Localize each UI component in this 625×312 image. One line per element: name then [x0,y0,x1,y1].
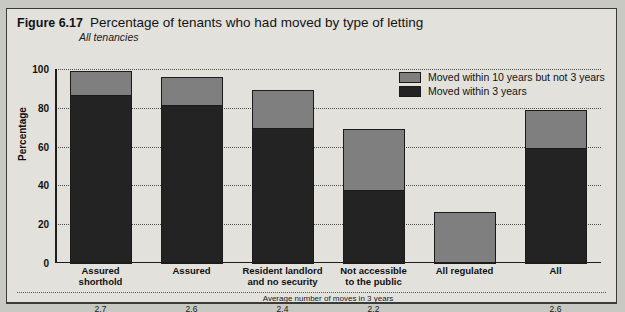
category-label-line2: shorthold [55,277,146,288]
bar-segment-moved-3-years [252,128,314,264]
bar-group [525,110,587,263]
y-tick-80: 80 [9,102,49,113]
legend-swatch-dark [399,86,421,97]
category-label-line1: Not accessible [328,266,419,277]
bar-segment-moved-3-years [343,190,405,264]
plot-area: 100 80 60 40 20 0 [55,69,601,263]
category-label-line1: All [510,266,601,277]
chart-legend: Moved within 10 years but not 3 years Mo… [399,71,605,97]
bar-segment-moved-10-years [161,77,223,106]
category-label-line2: to the public [328,277,419,288]
footnote-value: 2.2 [328,304,419,312]
footnote-value: 2.4 [237,304,328,312]
bar-group [70,71,132,263]
bar-segment-moved-10-years [70,71,132,96]
y-axis-line [55,69,57,263]
category-label-line2: and no security [237,277,328,288]
x-axis-category-label: All regulated [419,266,510,277]
bar-group [434,212,496,263]
y-tick-40: 40 [9,180,49,191]
figure-subtitle: All tenancies [79,31,608,43]
bar-segment-moved-3-years [70,95,132,264]
legend-label-moved-3-years: Moved within 3 years [428,85,527,97]
figure-number: Figure 6.17 [17,16,83,30]
bar-group [252,90,314,263]
footnote-values-row: 2.72.62.42.22.6 [55,304,601,312]
footnote-value: 2.7 [55,304,146,312]
legend-item-moved-3-years: Moved within 3 years [399,85,605,97]
bar-segment-moved-10-years [343,129,405,191]
footnote-divider [17,292,606,293]
category-label-line1: Resident landlord [237,266,328,277]
legend-item-moved-10-years: Moved within 10 years but not 3 years [399,71,605,83]
y-tick-0: 0 [9,258,49,269]
y-tick-60: 60 [9,141,49,152]
footnote-value: 2.6 [510,304,601,312]
page-title: Percentage of tenants who had moved by t… [90,15,423,30]
figure-panel: Figure 6.17 Percentage of tenants who ha… [6,8,617,304]
bar-group [343,129,405,263]
x-axis-category-label: All [510,266,601,277]
x-axis-line [55,262,601,264]
legend-swatch-light [399,72,421,83]
x-axis-category-label: Assuredshorthold [55,266,146,287]
figure-bottom-rule [7,302,616,303]
bar-series-container [55,69,601,263]
y-axis-label: Percentage [17,107,28,161]
bar-segment-moved-10-years [525,110,587,149]
figure-header: Figure 6.17 Percentage of tenants who ha… [17,15,608,43]
x-axis-category-label: Resident landlordand no security [237,266,328,287]
category-label-line1: Assured [55,266,146,277]
bar-segment-moved-3-years [161,105,223,264]
bar-segment-moved-10-years [434,212,496,264]
bar-group [161,77,223,263]
legend-label-moved-10-years: Moved within 10 years but not 3 years [428,71,605,83]
bar-segment-moved-10-years [252,90,314,129]
x-axis-category-label: Not accessibleto the public [328,266,419,287]
y-tick-20: 20 [9,219,49,230]
figure-title-line: Figure 6.17 Percentage of tenants who ha… [17,15,608,30]
x-axis-categories: AssuredshortholdAssuredResident landlord… [55,266,601,292]
footnote-value: 2.6 [146,304,237,312]
x-axis-category-label: Assured [146,266,237,277]
bar-segment-moved-3-years [525,148,587,264]
category-label-line1: Assured [146,266,237,277]
category-label-line1: All regulated [419,266,510,277]
y-tick-100: 100 [9,64,49,75]
